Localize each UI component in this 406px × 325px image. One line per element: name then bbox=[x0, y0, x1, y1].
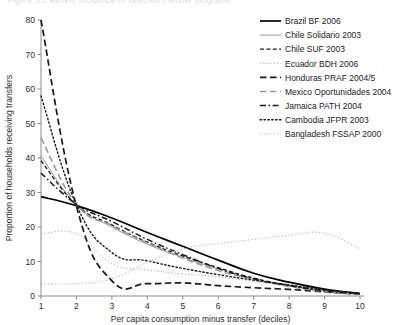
y-tick-label: 40 bbox=[26, 153, 36, 163]
y-tick-label: 80 bbox=[26, 15, 36, 25]
x-tick-label: 9 bbox=[322, 301, 327, 311]
y-tick-label: 0 bbox=[30, 291, 35, 301]
x-tick-label: 8 bbox=[287, 301, 292, 311]
series-line bbox=[41, 156, 360, 294]
x-axis-title: Per capita consumption minus transfer (d… bbox=[111, 314, 291, 324]
x-tick-label: 10 bbox=[355, 301, 365, 311]
legend-label: Honduras PRAF 2004/5 bbox=[285, 73, 376, 83]
legend-label: Jamaica PATH 2004 bbox=[285, 101, 362, 111]
y-tick-label: 10 bbox=[26, 257, 36, 267]
figure-root: Figure 5.2 Benefit incidence of selected… bbox=[0, 0, 406, 325]
y-tick-label: 60 bbox=[26, 84, 36, 94]
series-line bbox=[41, 173, 360, 294]
legend-label: Ecuador BDH 2006 bbox=[285, 59, 359, 69]
series-line bbox=[41, 161, 360, 294]
y-tick-label: 20 bbox=[26, 222, 36, 232]
legend-label: Bangladesh FSSAP 2000 bbox=[285, 129, 382, 139]
x-tick-label: 6 bbox=[216, 301, 221, 311]
y-tick-label: 50 bbox=[26, 119, 36, 129]
legend: Brazil BF 2006Chile Solidario 2003Chile … bbox=[260, 16, 392, 139]
x-tick-label: 7 bbox=[251, 301, 256, 311]
legend-label: Chile SUF 2003 bbox=[285, 44, 345, 54]
series-line bbox=[41, 138, 360, 294]
x-tick-label: 1 bbox=[39, 301, 44, 311]
legend-label: Cambodia JFPR 2003 bbox=[285, 115, 369, 125]
y-axis-title: Proportion of households receiving trans… bbox=[4, 75, 14, 241]
y-axis-ticks: 01020304050607080 bbox=[26, 15, 41, 301]
y-tick-label: 30 bbox=[26, 188, 36, 198]
legend-label: Chile Solidario 2003 bbox=[285, 30, 361, 40]
y-tick-label: 70 bbox=[26, 50, 36, 60]
x-tick-label: 3 bbox=[110, 301, 115, 311]
x-axis-ticks: 12345678910 bbox=[39, 296, 365, 311]
legend-label: Mexico Oportunidades 2004 bbox=[285, 87, 392, 97]
series-line bbox=[41, 232, 360, 284]
x-tick-label: 4 bbox=[145, 301, 150, 311]
x-tick-label: 5 bbox=[180, 301, 185, 311]
legend-label: Brazil BF 2006 bbox=[285, 16, 341, 26]
line-chart: 0102030405060708012345678910Per capita c… bbox=[0, 0, 406, 325]
x-tick-label: 2 bbox=[74, 301, 79, 311]
